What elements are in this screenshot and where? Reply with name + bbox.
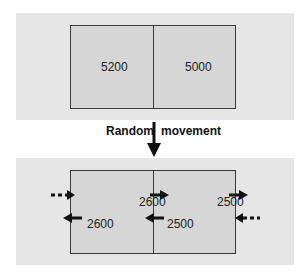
left-arrow-icon	[145, 213, 164, 223]
left-arrow-icon	[63, 213, 82, 223]
arrows-layer	[0, 0, 308, 273]
right-arrow-icon	[150, 190, 169, 200]
right-arrow-icon	[229, 190, 248, 200]
dashed-inflow-arrow-icon	[235, 213, 260, 223]
dashed-inflow-arrow-icon	[51, 190, 75, 200]
down-arrow-icon	[147, 122, 161, 157]
